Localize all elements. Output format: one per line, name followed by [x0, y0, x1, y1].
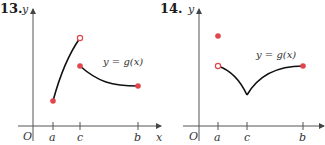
figure: 13. y x O a c b y = g(x) 14. y O: [0, 0, 325, 145]
open-point: [77, 35, 82, 40]
tick-label-a: a: [214, 131, 221, 144]
graph-13: 13. y x O a c b y = g(x): [0, 1, 163, 144]
curve-piece-1: [218, 66, 247, 95]
y-axis-label: y: [21, 3, 29, 16]
y-axis-label: y: [187, 3, 195, 16]
origin-label: O: [23, 130, 32, 143]
tick-label-c: c: [244, 131, 250, 144]
curve-label: y = g(x): [102, 56, 143, 67]
problem-number: 14.: [160, 1, 183, 16]
filled-point: [77, 63, 83, 69]
filled-point: [135, 83, 141, 89]
tick-label-b: b: [134, 131, 141, 144]
curve-piece-2: [247, 66, 303, 95]
problem-number: 13.: [0, 1, 23, 16]
graph-14: 14. y O a c b y = g(x): [160, 1, 324, 144]
curve-label: y = g(x): [255, 49, 296, 60]
filled-point: [215, 33, 221, 39]
tick-label-b: b: [299, 131, 306, 144]
open-point: [215, 63, 220, 68]
curve-piece-2: [80, 66, 138, 86]
x-axis-label: x: [156, 131, 163, 144]
origin-label: O: [189, 130, 198, 143]
tick-label-c: c: [77, 131, 83, 144]
filled-point: [50, 98, 56, 104]
curve-piece-1: [53, 38, 80, 101]
tick-label-a: a: [49, 131, 56, 144]
filled-point: [300, 63, 306, 69]
